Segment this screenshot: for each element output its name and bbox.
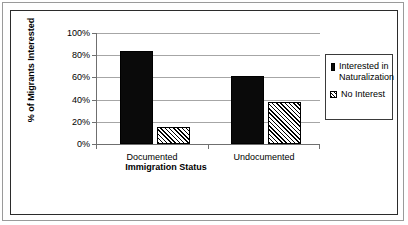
y-tick-mark [92, 77, 96, 78]
legend-label-no-interest: No Interest [341, 89, 385, 100]
plot-area: 100% 80% 60% 40% 20% [96, 33, 320, 144]
figure-inner-frame: % of Migrants Interested Immigration Sta… [10, 10, 398, 215]
y-tick-mark [92, 55, 96, 56]
bar-documented-interested[interactable] [120, 51, 153, 144]
x-category-label-documented: Documented [126, 152, 177, 162]
y-axis-line [96, 33, 97, 145]
y-tick-label-20: 20% [72, 117, 90, 127]
chart-legend: Interested in Naturalization No Interest [325, 54, 393, 120]
bar-documented-no-interest[interactable] [157, 127, 190, 144]
x-axis-title: Immigration Status [31, 162, 301, 172]
bar-undocumented-no-interest[interactable] [268, 102, 301, 144]
solid-black-square-icon [331, 63, 335, 71]
category-separator-middle [208, 144, 209, 149]
y-tick-label-40: 40% [72, 95, 90, 105]
figure-outer-frame: % of Migrants Interested Immigration Sta… [2, 2, 404, 221]
x-category-label-undocumented: Undocumented [233, 152, 294, 162]
y-tick-mark [92, 33, 96, 34]
category-separator-left [96, 144, 97, 149]
y-tick-label-100: 100% [67, 28, 90, 38]
bar-undocumented-interested[interactable] [231, 76, 264, 144]
y-tick-label-60: 60% [72, 72, 90, 82]
y-tick-label-80: 80% [72, 50, 90, 60]
y-axis-title: % of Migrants Interested [26, 4, 36, 136]
legend-item-interested[interactable]: Interested in Naturalization [330, 61, 388, 82]
legend-item-no-interest[interactable]: No Interest [330, 89, 388, 100]
category-separator-right [319, 144, 320, 149]
y-tick-mark [92, 100, 96, 101]
hatched-square-icon [330, 91, 337, 98]
y-tick-label-0: 0% [77, 139, 90, 149]
gridline-100 [96, 33, 320, 34]
legend-label-interested: Interested in Naturalization [339, 61, 394, 82]
bar-chart: % of Migrants Interested Immigration Sta… [11, 11, 397, 214]
y-tick-mark [92, 122, 96, 123]
